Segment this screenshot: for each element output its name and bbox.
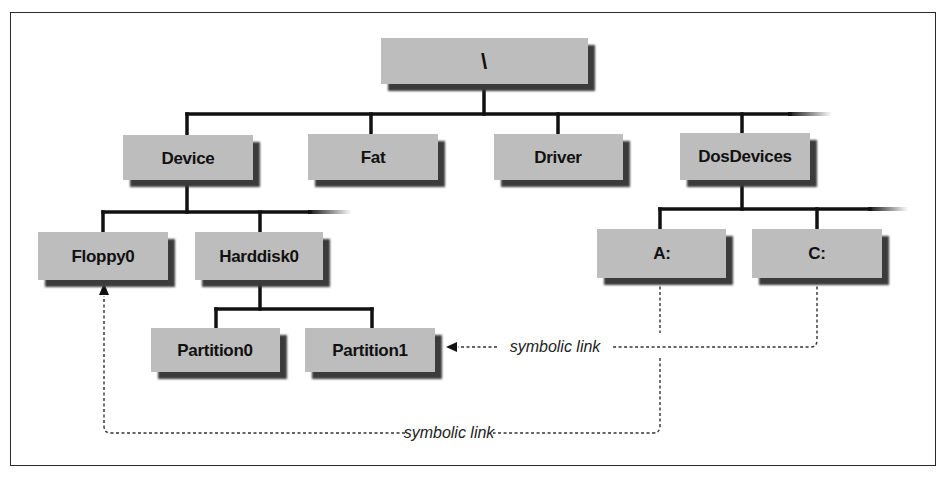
node-label-dosdevices: DosDevices bbox=[698, 147, 791, 166]
node-label-harddisk0: Harddisk0 bbox=[219, 247, 299, 266]
node-root[interactable]: \ bbox=[381, 38, 595, 91]
arrowhead-partition1-icon bbox=[446, 342, 457, 352]
node-label-device: Device bbox=[161, 149, 214, 168]
node-dosdevices[interactable]: DosDevices bbox=[680, 133, 817, 187]
node-fat[interactable]: Fat bbox=[308, 134, 445, 187]
node-partition1[interactable]: Partition1 bbox=[305, 328, 442, 379]
node-label-a: A: bbox=[653, 244, 670, 263]
node-label-c: C: bbox=[808, 244, 825, 263]
node-label-partition1: Partition1 bbox=[332, 341, 407, 360]
node-label-driver: Driver bbox=[534, 148, 582, 167]
symlink-label-floppy0: symbolic link bbox=[404, 424, 496, 441]
node-label-root: \ bbox=[481, 49, 487, 74]
symlink-path-c-segment-right bbox=[613, 281, 817, 347]
symlink-path-a-right bbox=[493, 358, 660, 433]
node-label-partition0: Partition0 bbox=[177, 341, 252, 360]
diagram-canvas: symbolic link symbolic link \ Device Fat… bbox=[0, 0, 948, 482]
node-label-floppy0: Floppy0 bbox=[71, 247, 134, 266]
tree-diagram: symbolic link symbolic link \ Device Fat… bbox=[0, 0, 948, 482]
node-label-fat: Fat bbox=[361, 148, 386, 167]
symlink-label-partition1: symbolic link bbox=[510, 338, 602, 355]
node-partition0[interactable]: Partition0 bbox=[151, 328, 287, 379]
node-harddisk0[interactable]: Harddisk0 bbox=[195, 232, 330, 287]
node-c-drive[interactable]: C: bbox=[752, 229, 889, 285]
node-a-drive[interactable]: A: bbox=[597, 229, 733, 285]
node-driver[interactable]: Driver bbox=[494, 134, 630, 187]
node-device[interactable]: Device bbox=[123, 135, 260, 187]
tree-connectors bbox=[103, 86, 870, 328]
node-floppy0[interactable]: Floppy0 bbox=[38, 232, 175, 287]
